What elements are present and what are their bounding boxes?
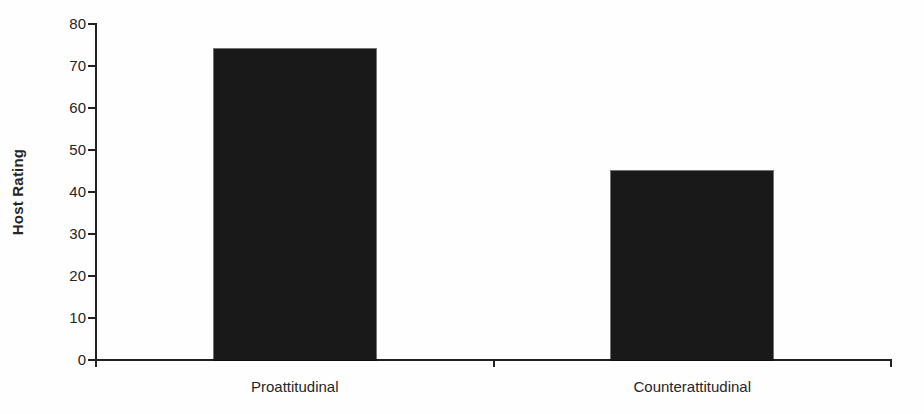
- y-tick-label: 50: [42, 141, 86, 159]
- y-tick-label: 0: [42, 351, 86, 369]
- y-tick-label: 20: [42, 267, 86, 285]
- x-tick-mark: [890, 361, 892, 367]
- y-tick-label: 80: [42, 15, 86, 33]
- y-tick-mark: [88, 65, 95, 67]
- y-tick-mark: [88, 191, 95, 193]
- x-axis-label-proattitudinal: Proattitudinal: [145, 378, 445, 396]
- y-axis-title: Host Rating: [9, 149, 26, 235]
- y-axis-line: [95, 23, 97, 361]
- y-tick-mark: [88, 107, 95, 109]
- y-tick-label: 10: [42, 309, 86, 327]
- y-tick-label: 30: [42, 225, 86, 243]
- y-tick-label: 60: [42, 99, 86, 117]
- bar-proattitudinal: [214, 49, 376, 360]
- y-tick-mark: [88, 317, 95, 319]
- y-tick-mark: [88, 275, 95, 277]
- x-tick-mark: [95, 361, 97, 367]
- y-tick-label: 40: [42, 183, 86, 201]
- bar-chart-figure: Host Rating 01020304050607080 Proattitud…: [0, 0, 924, 414]
- y-tick-mark: [88, 233, 95, 235]
- y-tick-mark: [88, 359, 95, 361]
- y-tick-mark: [88, 23, 95, 25]
- y-tick-mark: [88, 149, 95, 151]
- x-axis-label-counterattitudinal: Counterattitudinal: [542, 378, 842, 396]
- bar-counterattitudinal: [611, 171, 773, 360]
- x-tick-mark: [493, 361, 495, 367]
- y-tick-label: 70: [42, 57, 86, 75]
